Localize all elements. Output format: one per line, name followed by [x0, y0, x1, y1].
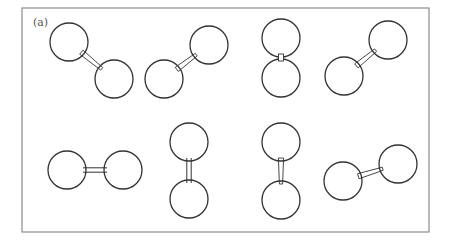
molecule-1: [50, 23, 133, 98]
bond: [278, 158, 283, 184]
molecule-diagram: [0, 0, 452, 243]
molecule-5: [48, 151, 142, 189]
atom-circle: [48, 151, 86, 189]
atom-circle: [262, 181, 300, 219]
atom-circle: [170, 180, 208, 218]
molecules-group: [48, 19, 417, 219]
atom-circle: [262, 19, 300, 57]
molecule-6: [170, 123, 208, 218]
molecule-7: [262, 123, 300, 219]
atom-circle: [170, 123, 208, 161]
atom-circle: [325, 57, 363, 95]
bond: [187, 158, 191, 183]
bond: [279, 54, 284, 61]
atom-circle: [324, 162, 362, 200]
atom-circle: [379, 145, 417, 183]
panel-label: (a): [33, 16, 48, 29]
atom-circle: [369, 21, 407, 59]
molecule-8: [324, 145, 417, 200]
atom-circle: [104, 151, 142, 189]
atom-circle: [190, 26, 228, 64]
figure-frame: [22, 8, 429, 232]
molecule-3: [262, 19, 300, 97]
molecule-4: [325, 21, 407, 95]
atom-circle: [95, 60, 133, 98]
molecule-2: [145, 26, 228, 98]
atom-circle: [262, 59, 300, 97]
atom-circle: [262, 123, 300, 161]
atom-circle: [50, 23, 88, 61]
atom-circle: [145, 60, 183, 98]
